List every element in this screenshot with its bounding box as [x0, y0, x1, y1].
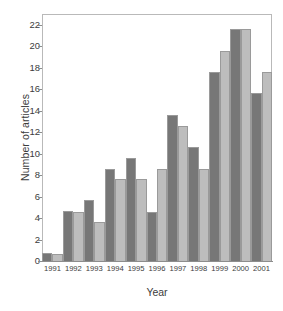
x-tick-label: 1991: [41, 264, 64, 274]
bar: [94, 222, 104, 261]
x-tick-label: 1993: [83, 264, 106, 274]
y-tick-mark: [38, 68, 42, 69]
bar: [84, 200, 94, 261]
bars-container: [42, 14, 272, 261]
bar: [262, 72, 272, 261]
bar: [73, 212, 83, 261]
x-tick-label: 2000: [229, 264, 252, 274]
bar: [167, 115, 177, 261]
x-tick-label: 1992: [62, 264, 85, 274]
y-tick-mark: [38, 111, 42, 112]
x-tick-label: 1996: [146, 264, 169, 274]
bar: [220, 51, 230, 261]
bar: [52, 254, 62, 261]
bar-chart-figure: Number of articles 0246810121416182022 1…: [0, 0, 283, 311]
x-tick-label: 1995: [125, 264, 148, 274]
bar: [188, 147, 198, 261]
bar: [157, 169, 167, 261]
x-tick-label: 1998: [187, 264, 210, 274]
y-tick-mark: [38, 197, 42, 198]
bar: [199, 169, 209, 261]
y-tick-mark: [38, 218, 42, 219]
y-tick-mark: [38, 46, 42, 47]
y-tick-mark: [38, 25, 42, 26]
x-tick-label: 1997: [166, 264, 189, 274]
bar: [42, 253, 52, 261]
bar: [105, 169, 115, 261]
x-tick-label: 2001: [250, 264, 273, 274]
bar: [136, 179, 146, 261]
x-axis-label: Year: [42, 286, 272, 298]
x-axis-spine: [42, 261, 273, 262]
bar: [63, 211, 73, 261]
bar: [251, 93, 261, 261]
x-tick-label: 1994: [104, 264, 127, 274]
bar: [126, 158, 136, 261]
y-tick-mark: [38, 240, 42, 241]
bar: [178, 126, 188, 261]
bar: [115, 179, 125, 261]
x-axis-tick-labels: 1991199219931994199519961997199819992000…: [42, 264, 272, 278]
y-tick-mark: [38, 89, 42, 90]
bar: [147, 212, 157, 261]
bar: [209, 72, 219, 261]
y-tick-mark: [38, 132, 42, 133]
y-tick-mark: [38, 261, 42, 262]
y-tick-mark: [38, 175, 42, 176]
x-tick-label: 1999: [208, 264, 231, 274]
bar: [241, 29, 251, 261]
y-tick-mark: [38, 154, 42, 155]
bar: [230, 29, 240, 261]
